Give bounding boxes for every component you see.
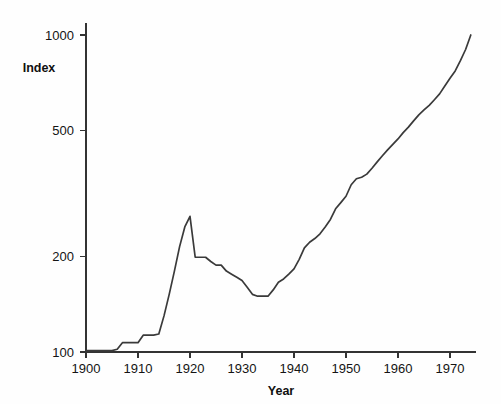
- x-axis-title: Year: [268, 384, 295, 398]
- y-axis-ticks: 1002005001000: [45, 28, 86, 360]
- x-tick-label: 1900: [72, 361, 101, 376]
- index-line-series: [86, 35, 471, 351]
- y-tick-label: 100: [52, 345, 74, 360]
- y-axis-title: Index: [23, 61, 56, 75]
- x-tick-label: 1930: [228, 361, 257, 376]
- x-tick-label: 1920: [176, 361, 205, 376]
- axes: [86, 23, 476, 352]
- x-tick-label: 1950: [332, 361, 361, 376]
- x-tick-label: 1910: [124, 361, 153, 376]
- data-series-group: [86, 35, 471, 351]
- x-axis-ticks: 19001910192019301940195019601970: [72, 352, 465, 376]
- x-tick-label: 1960: [384, 361, 413, 376]
- y-tick-label: 500: [52, 123, 74, 138]
- y-tick-label: 200: [52, 249, 74, 264]
- line-chart: 1002005001000 19001910192019301940195019…: [0, 0, 501, 404]
- chart-container: 1002005001000 19001910192019301940195019…: [0, 0, 501, 404]
- x-tick-label: 1940: [280, 361, 309, 376]
- x-tick-label: 1970: [436, 361, 465, 376]
- y-tick-label: 1000: [45, 28, 74, 43]
